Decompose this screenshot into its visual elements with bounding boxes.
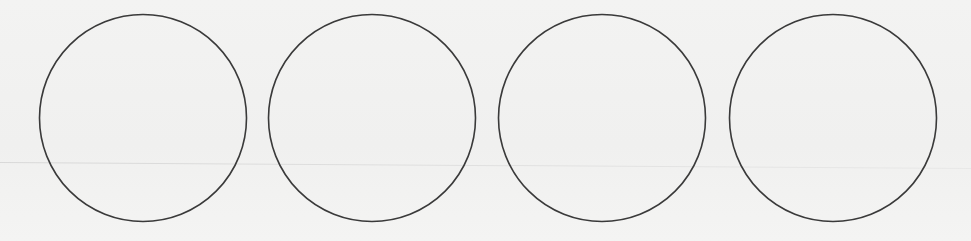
circle-4 xyxy=(730,15,937,222)
circle-2 xyxy=(269,15,476,222)
paper-page xyxy=(0,0,971,241)
circle-3 xyxy=(499,15,706,222)
circle-1 xyxy=(40,15,247,222)
circles-diagram xyxy=(0,0,971,241)
